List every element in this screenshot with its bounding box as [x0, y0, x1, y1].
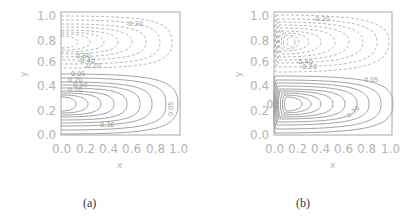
- svg-text:0.8: 0.8: [357, 142, 376, 156]
- svg-text:0.2: 0.2: [37, 104, 56, 118]
- svg-text:0.30: 0.30: [100, 121, 114, 129]
- positive-contours-b: [268, 76, 393, 133]
- negative-contours-b: [275, 15, 390, 72]
- caption-a: (a): [83, 196, 96, 211]
- svg-text:0.2: 0.2: [250, 104, 269, 118]
- svg-text:0.05: 0.05: [364, 76, 378, 84]
- svg-text:y: y: [18, 71, 28, 77]
- svg-text:y: y: [233, 71, 243, 77]
- svg-text:0.0: 0.0: [265, 142, 284, 156]
- svg-text:0.0: 0.0: [52, 142, 71, 156]
- svg-text:0.8: 0.8: [37, 34, 56, 48]
- x-axis-a: 0.0 0.2 0.4 0.6 0.8 1.0 x: [52, 142, 188, 170]
- y-axis-a: 1.0 0.8 0.6 0.4 0.2 0.0 y: [18, 9, 56, 142]
- svg-text:-0.20: -0.20: [313, 15, 330, 23]
- svg-text:-0.20: -0.20: [300, 63, 317, 71]
- plot-a-svg: -0.20 -0.60 -0.40 -0.20 0.05 0.20 0.50 0…: [0, 0, 207, 222]
- svg-text:1.0: 1.0: [250, 9, 269, 23]
- y-axis-b: 1.0 0.8 0.6 0.4 0.2 0.0 y: [233, 9, 269, 142]
- svg-text:0.4: 0.4: [99, 142, 118, 156]
- svg-text:1.0: 1.0: [37, 9, 56, 23]
- svg-text:1.0: 1.0: [381, 142, 400, 156]
- svg-text:0.6: 0.6: [334, 142, 353, 156]
- caption-b: (b): [296, 196, 310, 211]
- svg-text:1.0: 1.0: [169, 142, 188, 156]
- contour-plot-a: -0.20 -0.60 -0.40 -0.20 0.05 0.20 0.50 0…: [0, 0, 207, 222]
- svg-text:0.8: 0.8: [146, 142, 165, 156]
- svg-text:0.8: 0.8: [250, 34, 269, 48]
- svg-text:0.4: 0.4: [250, 79, 269, 93]
- svg-text:0.2: 0.2: [76, 142, 95, 156]
- svg-text:0.6: 0.6: [250, 55, 269, 69]
- svg-text:x: x: [330, 160, 336, 170]
- plot-b-svg: -0.20 -0.40 -0.20 0.05 0.30 1.0 0.8 0.6 …: [207, 0, 414, 222]
- svg-text:x: x: [117, 160, 123, 170]
- x-axis-b: 0.0 0.2 0.4 0.6 0.8 1.0 x: [265, 142, 400, 170]
- svg-text:0.4: 0.4: [311, 142, 330, 156]
- svg-text:0.05: 0.05: [167, 102, 175, 116]
- svg-text:0.2: 0.2: [288, 142, 307, 156]
- svg-text:-0.20: -0.20: [126, 20, 143, 28]
- svg-text:0.70: 0.70: [68, 86, 82, 94]
- svg-text:0.6: 0.6: [122, 142, 141, 156]
- svg-text:0.0: 0.0: [250, 128, 269, 142]
- svg-text:0.6: 0.6: [37, 55, 56, 69]
- svg-text:0.0: 0.0: [37, 128, 56, 142]
- svg-text:0.4: 0.4: [37, 79, 56, 93]
- contour-plot-b: -0.20 -0.40 -0.20 0.05 0.30 1.0 0.8 0.6 …: [207, 0, 414, 222]
- contour-labels-b: -0.20 -0.40 -0.20 0.05 0.30: [296, 15, 378, 120]
- svg-text:-0.20: -0.20: [84, 62, 101, 70]
